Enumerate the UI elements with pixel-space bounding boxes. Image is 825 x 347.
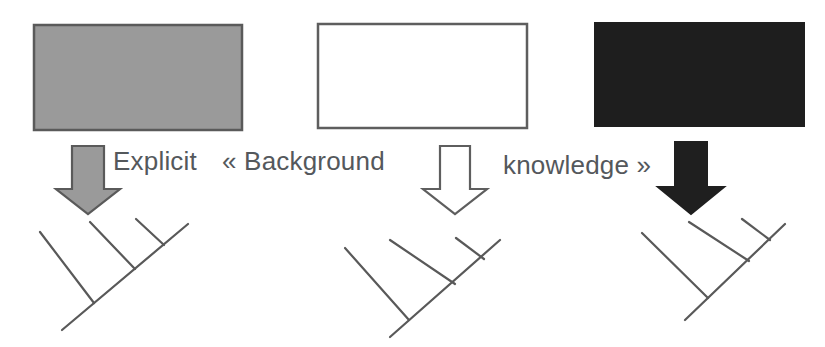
tree-branch-1 [345,248,409,320]
caption-explicit: Explicit [113,148,197,174]
tree-spine [685,224,785,320]
down-arrow-gray[interactable] [56,146,120,214]
cladogram-left [40,219,188,330]
down-arrow-white[interactable] [423,146,487,214]
tree-branch-3 [136,219,164,245]
tree-branch-1 [642,233,708,298]
caption-background: « Background [222,148,385,174]
tree-branch-2 [390,240,455,284]
column-2 [318,24,527,337]
tree-spine [62,224,188,330]
tree-branch-2 [689,222,749,261]
knowledge-box-gray[interactable] [34,25,242,130]
cladogram-right [642,219,785,320]
cladogram-middle [345,238,500,337]
knowledge-box-black[interactable] [595,23,804,126]
figure-canvas: Explicit « Background knowledge » [0,0,825,347]
column-1 [34,25,242,330]
tree-spine [390,240,500,337]
down-arrow-black[interactable] [658,142,724,214]
tree-branch-2 [90,222,135,269]
caption-knowledge: knowledge » [503,152,651,178]
knowledge-box-white[interactable] [318,24,527,128]
tree-branch-1 [40,232,94,303]
tree-branch-3 [456,238,484,259]
tree-branch-3 [742,219,770,240]
